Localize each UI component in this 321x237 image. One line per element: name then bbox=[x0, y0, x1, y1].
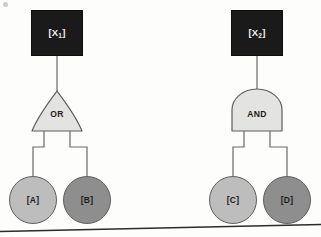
basic-event-a[interactable]: [A] bbox=[9, 176, 57, 224]
basic-event-a-label: [A] bbox=[27, 195, 39, 205]
fault-tree-diagram: [X1] [X2] OR AND [A] [B] [C] [D] bbox=[0, 0, 321, 237]
top-event-x2-label: [X2] bbox=[248, 28, 265, 38]
top-event-x1[interactable]: [X1] bbox=[31, 10, 83, 56]
connector-and-gate-to-c bbox=[233, 131, 244, 176]
top-event-x1-label: [X1] bbox=[48, 28, 65, 38]
or-gate-label: OR bbox=[32, 110, 82, 119]
page-edge-rule bbox=[0, 225, 321, 232]
and-gate-label: AND bbox=[232, 110, 282, 119]
basic-event-c[interactable]: [C] bbox=[209, 176, 257, 224]
basic-event-d[interactable]: [D] bbox=[263, 176, 311, 224]
connector-or-gate-to-a bbox=[33, 131, 44, 176]
basic-event-b-label: [B] bbox=[81, 195, 93, 205]
basic-event-d-label: [D] bbox=[281, 195, 293, 205]
top-event-x2[interactable]: [X2] bbox=[231, 10, 283, 56]
basic-event-c-label: [C] bbox=[227, 195, 239, 205]
connector-and-gate-to-d bbox=[270, 131, 287, 176]
connector-or-gate-to-b bbox=[70, 131, 87, 176]
basic-event-b[interactable]: [B] bbox=[63, 176, 111, 224]
